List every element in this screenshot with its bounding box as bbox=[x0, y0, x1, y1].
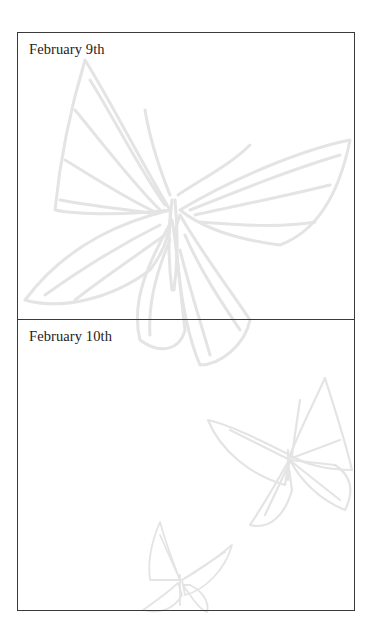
journal-entry-february-10[interactable]: February 10th bbox=[18, 320, 354, 610]
journal-entry-february-9[interactable]: February 9th bbox=[18, 33, 354, 320]
entry-date-heading: February 9th bbox=[29, 41, 105, 58]
journal-page-frame: February 9th February 10th bbox=[17, 32, 355, 611]
entry-date-heading: February 10th bbox=[29, 328, 112, 345]
